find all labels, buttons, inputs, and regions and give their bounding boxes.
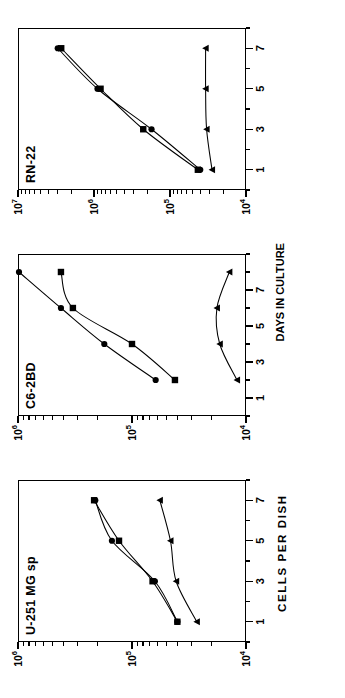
- data-point-triangle: [173, 578, 179, 585]
- data-point-square: [91, 497, 97, 503]
- data-point-square: [140, 126, 146, 132]
- series-line-square: [61, 48, 198, 170]
- x-axis-title: DAYS IN CULTURE: [274, 243, 286, 341]
- data-point-square: [172, 377, 178, 383]
- data-point-square: [97, 86, 103, 92]
- data-point-square: [174, 619, 180, 625]
- data-point-circle: [109, 538, 115, 544]
- panel-rn-22: RN-221041051061071357: [0, 22, 345, 224]
- series-line-square: [61, 272, 175, 380]
- data-point-triangle: [156, 497, 162, 504]
- data-point-square: [195, 167, 201, 173]
- figure-canvas: U-251 MG sp1041051061357 C6-2BD104105106…: [0, 0, 345, 698]
- panel-c6-2bd: C6-2BD1041051061357: [0, 248, 345, 450]
- data-point-square: [116, 538, 122, 544]
- series-layer: [0, 22, 345, 224]
- y-axis-title: CELLS PER DISH: [276, 494, 288, 612]
- panel-u-251-mg-sp: U-251 MG sp1041051061357: [0, 474, 345, 676]
- series-line-triangle: [160, 500, 197, 622]
- data-point-square: [129, 341, 135, 347]
- data-point-circle: [153, 377, 159, 383]
- series-line-triangle: [206, 48, 212, 170]
- data-point-circle: [148, 126, 154, 132]
- series-layer: [0, 474, 345, 676]
- data-point-triangle: [226, 268, 232, 275]
- data-point-triangle: [193, 618, 199, 625]
- data-point-square: [70, 305, 76, 311]
- data-point-square: [58, 269, 64, 275]
- data-point-triangle: [234, 376, 240, 383]
- series-layer: [0, 248, 345, 450]
- data-point-circle: [58, 305, 64, 311]
- data-point-circle: [16, 269, 22, 275]
- rotated-figure-container: U-251 MG sp1041051061357 C6-2BD104105106…: [0, 0, 345, 698]
- data-point-square: [58, 45, 64, 51]
- data-point-circle: [101, 341, 107, 347]
- data-point-square: [149, 578, 155, 584]
- series-line-circle: [19, 272, 156, 380]
- series-line-triangle: [216, 272, 237, 380]
